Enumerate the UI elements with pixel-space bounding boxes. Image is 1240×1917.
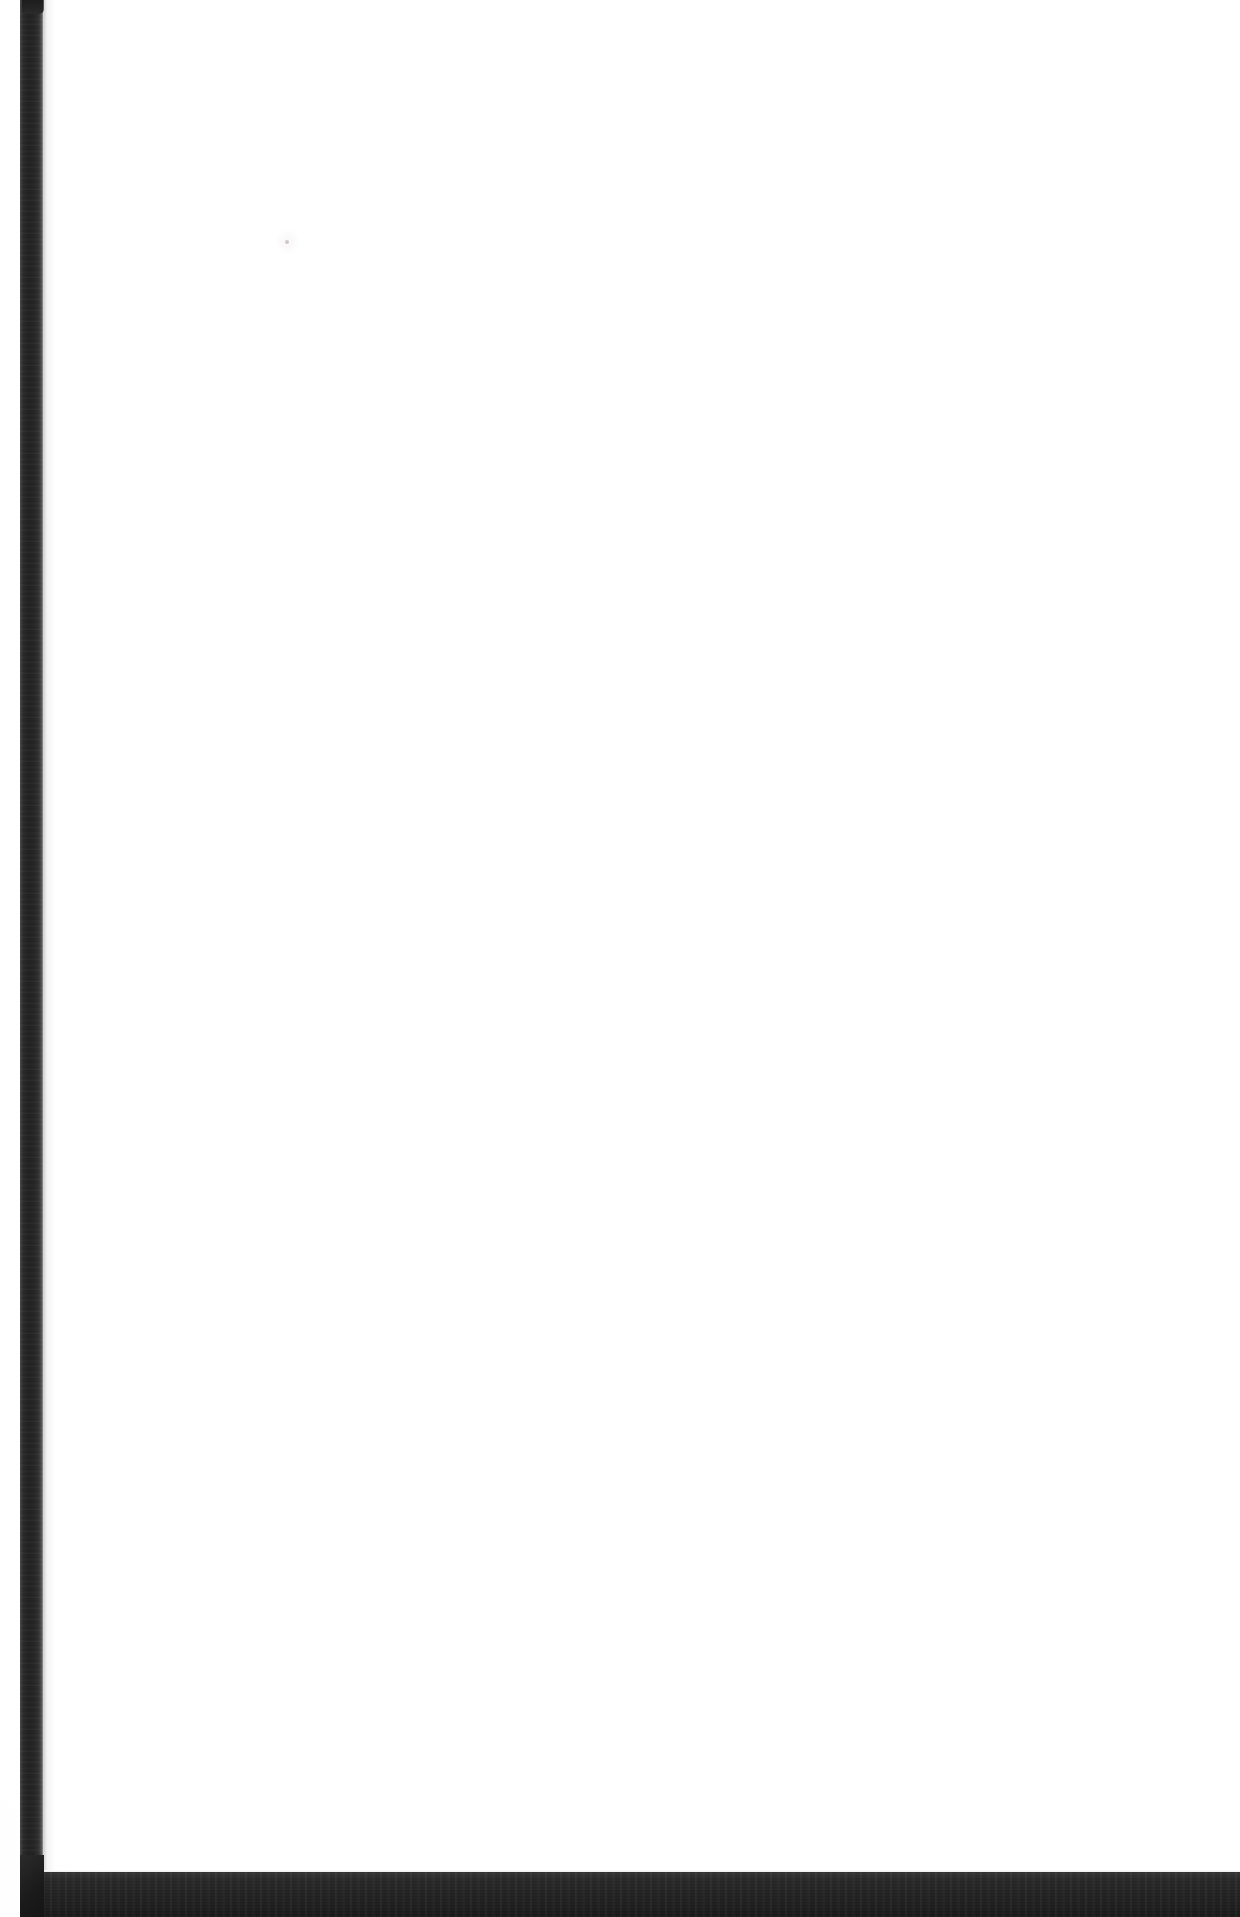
page-spine-halo	[43, 0, 55, 1884]
scan-artifact-speck-icon	[285, 240, 289, 244]
page-spine-top-cap	[22, 0, 44, 14]
page-paper-surface	[0, 0, 1240, 1917]
page-text-area	[120, 120, 1120, 1720]
page-spine-shadow	[20, 0, 43, 1884]
page-bottom-edge-band	[20, 1872, 1240, 1917]
scanned-page	[0, 0, 1240, 1917]
page-corner-joint	[20, 1855, 44, 1917]
